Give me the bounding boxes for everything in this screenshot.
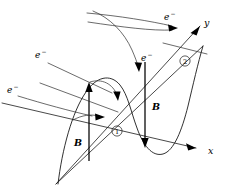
B-vector-right-label: B xyxy=(151,101,160,112)
electron-middle-label: e xyxy=(141,53,146,63)
y-axis-label: y xyxy=(203,17,210,28)
z-axis-line xyxy=(56,46,203,184)
electron-lower-left-curve xyxy=(18,96,92,116)
electron-lower-left-hook xyxy=(73,115,99,120)
electron-upper-left-arrowhead xyxy=(113,91,120,101)
electron-upper-left-ray xyxy=(48,63,112,93)
electron-top-arrowhead xyxy=(168,24,178,31)
x-axis-arrowhead xyxy=(186,143,196,150)
x-axis-label: x xyxy=(208,145,214,156)
electron-middle-curve xyxy=(93,11,138,66)
B-vector-left-label: B xyxy=(73,137,82,148)
electron-trajectory-upper-left: e − xyxy=(35,48,121,101)
electron-top-right-label: e xyxy=(164,12,169,22)
marker-position-2: 2 xyxy=(180,56,190,66)
electron-middle-charge: − xyxy=(148,51,153,58)
B-vector-right-arrowhead xyxy=(141,138,148,148)
marker-1-label: 1 xyxy=(115,128,119,136)
y-axis-line xyxy=(56,26,200,184)
electron-upper-left-label: e xyxy=(35,50,40,60)
electron-middle-arrowhead xyxy=(135,62,142,72)
marker-2-label: 2 xyxy=(183,58,187,66)
electron-lower-left-charge: − xyxy=(14,83,19,90)
B-vector-right: B xyxy=(141,62,160,148)
x-axis-line xyxy=(2,103,196,148)
electron-trajectory-top-right: e − xyxy=(87,10,178,32)
electron-top-right-charge: − xyxy=(171,10,176,17)
electron-upper-left-charge: − xyxy=(42,48,47,55)
electron-lower-left-label: e xyxy=(7,85,12,95)
marker-position-1: 1 xyxy=(112,126,122,136)
electron-lower-left-arrowhead xyxy=(95,113,105,120)
physics-diagram-figure: x y B B 1 2 xyxy=(0,0,228,194)
electron-top-curve-upper xyxy=(87,13,172,26)
physics-diagram-canvas: x y B B 1 2 xyxy=(0,0,228,194)
electron-trajectory-lower-left: e − xyxy=(7,83,118,121)
y-axis-arrowhead xyxy=(191,26,201,35)
y-axis xyxy=(56,26,200,184)
electron-lower-left-ray xyxy=(40,83,118,112)
z-axis xyxy=(56,46,203,184)
